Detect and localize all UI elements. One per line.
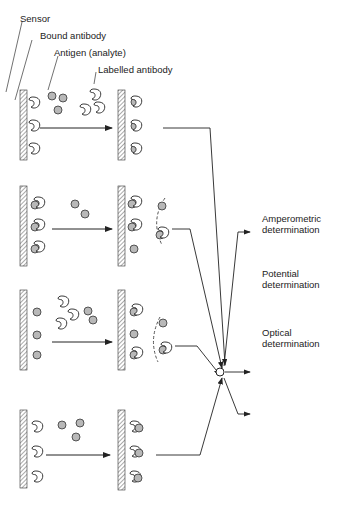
label-antigen: Antigen (analyte) [54, 47, 126, 58]
output-optical: Optical determination [262, 327, 320, 349]
output-amperometric: Amperometric determination [262, 213, 321, 235]
hub-node [216, 368, 224, 376]
label-labelled-antibody: Labelled antibody [98, 64, 172, 75]
output-potential: Potential determination [262, 268, 320, 290]
label-sensor: Sensor [20, 13, 50, 24]
immunosensor-diagram [0, 0, 340, 517]
row-3 [20, 290, 220, 375]
row-4 [20, 378, 222, 490]
label-bound-antibody: Bound antibody [40, 30, 106, 41]
